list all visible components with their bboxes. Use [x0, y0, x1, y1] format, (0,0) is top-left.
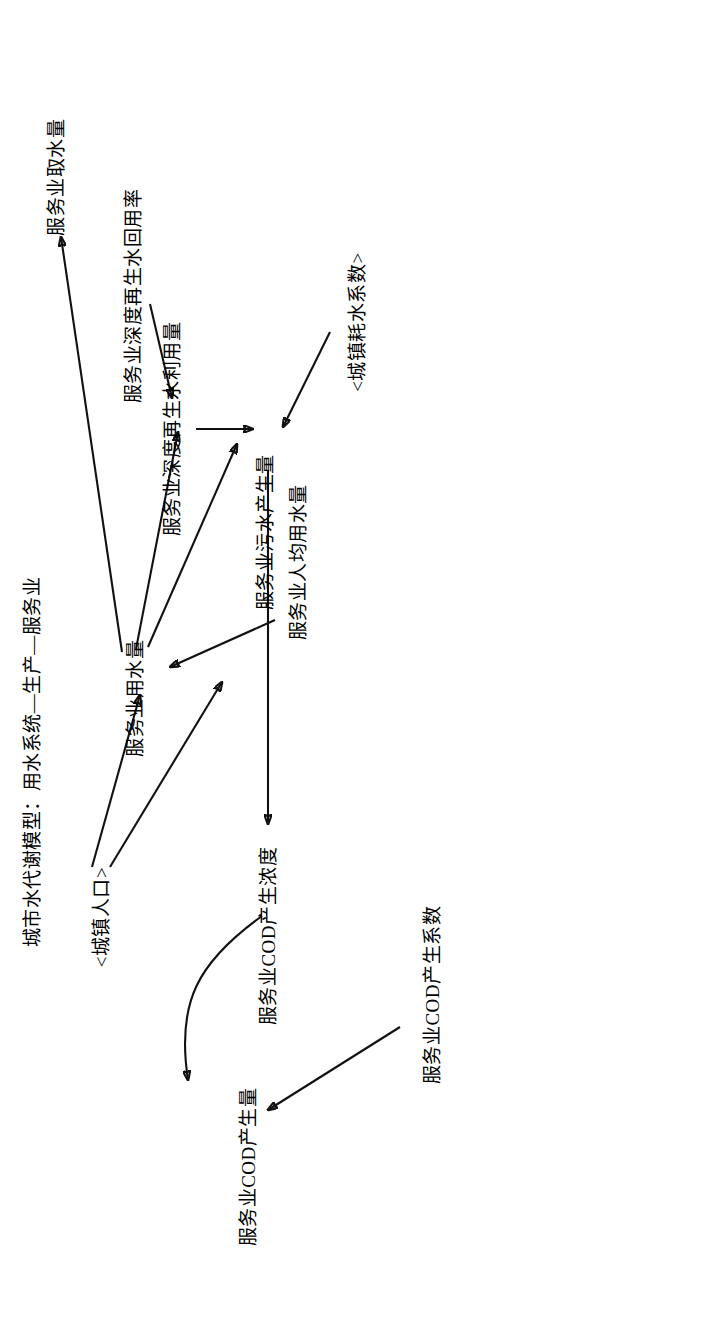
node-service-reclaimed-use[interactable]: 服务业深度再生水利用量: [163, 322, 182, 537]
node-service-cod-generation[interactable]: 服务业COD产生量: [239, 1088, 258, 1247]
node-service-cod-conc[interactable]: 服务业COD产生浓度: [259, 847, 278, 1025]
node-service-reclaimed-rate[interactable]: 服务业深度再生水回用率: [124, 189, 143, 404]
figure-title: 城市水代谢模型：用水系统—生产—服务业: [23, 577, 42, 948]
edge-cod-coef-to-cod-generation: [268, 1027, 400, 1110]
edge-per-capita-to-water-use: [170, 620, 275, 667]
edge-water-use-to-withdrawal: [61, 237, 122, 652]
edge-cod-conc-to-cod-generation: [185, 916, 262, 1080]
node-service-water-use[interactable]: 服务业用水量: [126, 640, 145, 757]
edge-layer: [0, 0, 701, 1332]
node-urban-consumption-coef[interactable]: <城镇耗水系数>: [348, 252, 367, 391]
node-service-per-capita-water[interactable]: 服务业人均用水量: [289, 484, 308, 640]
node-service-cod-coef[interactable]: 服务业COD产生系数: [423, 906, 442, 1084]
node-urban-population[interactable]: <城镇人口>: [92, 867, 111, 967]
diagram-canvas: 城市水代谢模型：用水系统—生产—服务业 <城镇人口> 服务业COD产生量 服务业…: [0, 0, 701, 1332]
node-service-wastewater[interactable]: 服务业污水产生量: [256, 454, 275, 610]
node-service-water-withdrawal[interactable]: 服务业取水量: [47, 119, 66, 236]
diagram-rotator: 城市水代谢模型：用水系统—生产—服务业 <城镇人口> 服务业COD产生量 服务业…: [0, 0, 701, 1332]
edge-consumption-coef-to-wastewater: [283, 332, 330, 427]
